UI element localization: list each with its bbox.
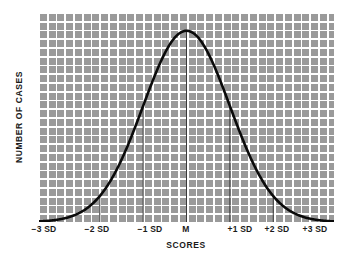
- x-tick-label-plus-1sd: +1 SD: [228, 224, 253, 235]
- x-tick-label-plus-2sd: +2 SD: [265, 224, 290, 235]
- x-tick-label-minus-3sd: −3 SD: [32, 224, 57, 235]
- plot-area: [39, 13, 334, 222]
- normal-distribution-figure: −3 SD −2 SD −1 SD M +1 SD +2 SD +3 SD SC…: [0, 0, 349, 268]
- sd-marker-lines: [100, 31, 274, 222]
- x-tick-label-plus-3sd: +3 SD: [303, 224, 328, 235]
- distribution-curve-layer: [39, 13, 334, 222]
- x-tick-label-mean: M: [182, 224, 189, 235]
- x-tick-label-minus-1sd: −1 SD: [138, 224, 163, 235]
- x-tick-label-minus-2sd: −2 SD: [85, 224, 110, 235]
- y-axis-title: NUMBER OF CASES: [14, 37, 25, 197]
- x-axis-title: SCORES: [166, 240, 206, 251]
